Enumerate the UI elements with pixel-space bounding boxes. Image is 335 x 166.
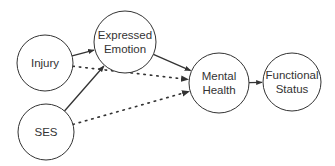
nodes: InjuryExpressedEmotionSESMentalHealthFun… [17,11,321,160]
path-diagram: InjuryExpressedEmotionSESMentalHealthFun… [0,0,335,166]
node-label: Health [202,84,235,96]
node-label: Status [276,83,309,95]
node-mental-health: MentalHealth [189,53,249,113]
node-label: Expressed [98,29,152,41]
node-label: SES [34,126,57,138]
node-functional-status: FunctionalStatus [263,53,321,111]
node-label: Injury [31,57,59,69]
node-label: Mental [202,70,237,82]
node-injury: Injury [17,35,73,91]
node-expressed-emotion: ExpressedEmotion [94,11,156,73]
node-label: Functional [265,69,318,81]
edge-expressed-emotion-to-mental-health [153,54,190,70]
node-circle [189,53,249,113]
node-circle [94,11,156,73]
node-label: Emotion [104,43,146,55]
node-circle [263,53,321,111]
edge-ses-to-mental-health [73,91,189,124]
edge-injury-to-expressed-emotion [72,50,94,56]
node-ses: SES [18,104,74,160]
